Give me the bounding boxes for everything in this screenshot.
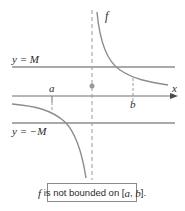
point-a-label: a: [49, 83, 55, 94]
point-marker: [90, 84, 95, 89]
lower-bound-label: y = −M: [12, 126, 46, 137]
caption-text: is not bounded on [: [41, 187, 124, 198]
upper-bound-label: y = M: [12, 54, 39, 65]
function-curve-left: [12, 104, 86, 178]
caption-box: f is not bounded on [ a , b ].: [47, 183, 137, 202]
caption-suffix: ].: [141, 187, 146, 198]
function-label: f: [105, 10, 108, 22]
x-axis-label: x: [172, 83, 177, 94]
point-b-label: b: [130, 99, 136, 110]
unbounded-function-diagram: [0, 0, 185, 211]
